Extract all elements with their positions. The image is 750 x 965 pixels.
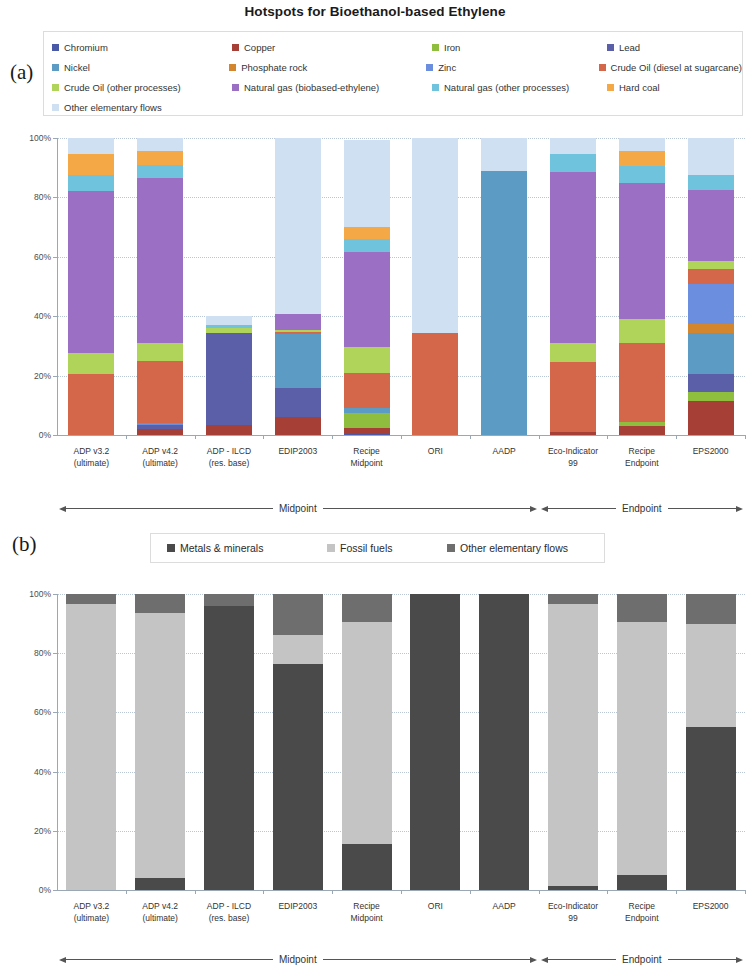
arrow-right-icon (736, 957, 743, 963)
bar-adp-v4-2-ultimate[interactable] (135, 594, 185, 890)
bar-segment (410, 594, 460, 890)
x-axis-tick (676, 890, 677, 894)
bar-segment (548, 604, 598, 885)
bar-segment (273, 664, 323, 890)
group-axis-midpoint: Midpoint (59, 954, 537, 965)
arrow-left-icon (59, 957, 66, 963)
x-axis-tick-label: ORI (397, 900, 474, 912)
group-axis-label: Midpoint (273, 954, 323, 965)
x-axis-tick (332, 890, 333, 894)
bar-segment (548, 594, 598, 604)
bar-segment (135, 613, 185, 878)
bar-segment (204, 594, 254, 606)
x-axis-label-line: 99 (535, 912, 612, 924)
arrow-left-icon (541, 957, 548, 963)
x-axis-tick-label: AADP (466, 900, 543, 912)
x-axis-tick (539, 890, 540, 894)
x-axis-label-line: Recipe (328, 900, 405, 912)
bar-segment (66, 594, 116, 604)
x-axis-label-line: AADP (466, 900, 543, 912)
bar-eps2000[interactable] (686, 594, 736, 890)
bar-segment (342, 622, 392, 844)
x-axis-tick-label: EDIP2003 (259, 900, 336, 912)
bar-segment (273, 594, 323, 635)
x-axis-tick-label: Eco-Indicator99 (535, 900, 612, 924)
y-axis-tick-label: 60% (17, 707, 51, 717)
y-axis-tick-label: 0% (17, 885, 51, 895)
x-axis-label-line: Midpoint (328, 912, 405, 924)
y-axis-tick-label: 20% (17, 826, 51, 836)
x-axis-tick-label: ADP v3.2(ultimate) (53, 900, 130, 924)
group-axis-endpoint: Endpoint (541, 954, 743, 965)
axis-rule (66, 959, 273, 960)
bar-eco-indicator-99[interactable] (548, 594, 598, 890)
bar-segment (617, 622, 667, 875)
bar-segment (342, 594, 392, 622)
x-axis-label-line: ADP v3.2 (53, 900, 130, 912)
bar-edip2003[interactable] (273, 594, 323, 890)
x-axis-label-line: (res. base) (191, 912, 268, 924)
x-axis-label-line: Endpoint (603, 912, 680, 924)
bar-adp-ilcd-res-base[interactable] (204, 594, 254, 890)
y-axis-line (57, 594, 58, 890)
bar-segment (66, 604, 116, 890)
x-axis-tick-label: RecipeMidpoint (328, 900, 405, 924)
y-axis-tick-label: 80% (17, 648, 51, 658)
bar-segment (686, 624, 736, 728)
bar-segment (548, 886, 598, 890)
x-axis-tick (470, 890, 471, 894)
bar-segment (135, 878, 185, 890)
bar-recipe-endpoint[interactable] (617, 594, 667, 890)
x-axis-label-line: ORI (397, 900, 474, 912)
bar-segment (686, 727, 736, 890)
x-axis-label-line: EPS2000 (672, 900, 749, 912)
bar-ori[interactable] (410, 594, 460, 890)
x-axis-tick (745, 890, 746, 894)
bar-recipe-midpoint[interactable] (342, 594, 392, 890)
bar-segment (342, 844, 392, 890)
x-axis-tick-label: RecipeEndpoint (603, 900, 680, 924)
axis-rule (548, 959, 616, 960)
y-axis-tick-label: 40% (17, 767, 51, 777)
x-axis-tick (195, 890, 196, 894)
y-axis-tick-label: 100% (17, 589, 51, 599)
x-axis-tick (263, 890, 264, 894)
x-axis-label-line: EDIP2003 (259, 900, 336, 912)
group-axis-label: Endpoint (616, 954, 667, 965)
bar-segment (686, 594, 736, 624)
bar-aadp[interactable] (479, 594, 529, 890)
axis-rule (323, 959, 530, 960)
bar-segment (479, 594, 529, 890)
bar-adp-v3-2-ultimate[interactable] (66, 594, 116, 890)
bar-segment (135, 594, 185, 613)
axis-rule (668, 959, 736, 960)
x-axis-label-line: Eco-Indicator (535, 900, 612, 912)
bar-segment (273, 635, 323, 663)
x-axis-tick-label: EPS2000 (672, 900, 749, 912)
x-axis-label-line: (ultimate) (53, 912, 130, 924)
x-axis-label-line: ADP - ILCD (191, 900, 268, 912)
x-axis-label-line: ADP v4.2 (122, 900, 199, 912)
bar-segment (617, 875, 667, 890)
bar-segment (617, 594, 667, 622)
x-axis-tick-label: ADP v4.2(ultimate) (122, 900, 199, 924)
x-axis-label-line: Recipe (603, 900, 680, 912)
x-axis-tick (126, 890, 127, 894)
x-axis-tick (401, 890, 402, 894)
arrow-right-icon (530, 957, 537, 963)
x-axis-label-line: (ultimate) (122, 912, 199, 924)
bar-segment (204, 606, 254, 890)
x-axis-tick-label: ADP - ILCD(res. base) (191, 900, 268, 924)
x-axis-tick (607, 890, 608, 894)
